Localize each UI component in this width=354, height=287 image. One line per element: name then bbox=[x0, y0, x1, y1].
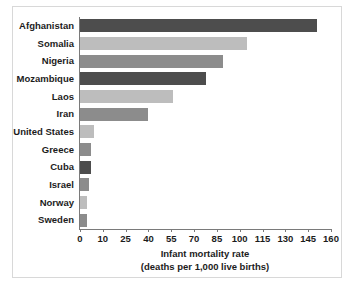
x-axis-tick bbox=[194, 229, 195, 232]
x-axis-tick-label: 130 bbox=[277, 233, 293, 244]
x-axis-tick-label: 10 bbox=[98, 233, 109, 244]
bar-row: Norway bbox=[80, 194, 331, 212]
bar-row: United States bbox=[80, 123, 331, 141]
bar-row: Mozambique bbox=[80, 70, 331, 88]
category-label: Cuba bbox=[50, 159, 74, 174]
bar bbox=[80, 143, 91, 156]
bar-row: Sweden bbox=[80, 211, 331, 229]
category-label: Laos bbox=[52, 89, 74, 104]
category-label: United States bbox=[13, 124, 74, 139]
x-axis-tick bbox=[331, 229, 332, 232]
x-axis-tick-label: 115 bbox=[255, 233, 270, 244]
bar-row: Greece bbox=[80, 141, 331, 159]
x-axis-title: Infant mortality rate (deaths per 1,000 … bbox=[79, 247, 331, 273]
bar bbox=[80, 178, 89, 191]
chart-figure: AfghanistanSomaliaNigeriaMozambiqueLaosI… bbox=[12, 6, 342, 278]
bar-row: Nigeria bbox=[80, 52, 331, 70]
bar bbox=[80, 55, 223, 68]
x-axis-tick bbox=[126, 229, 127, 232]
x-axis-tick bbox=[80, 229, 81, 232]
plot-area: AfghanistanSomaliaNigeriaMozambiqueLaosI… bbox=[79, 17, 331, 230]
x-axis-tick bbox=[217, 229, 218, 232]
bar-row: Afghanistan bbox=[80, 17, 331, 35]
bar-row: Somalia bbox=[80, 35, 331, 53]
x-axis-tick bbox=[148, 229, 149, 232]
bar bbox=[80, 161, 91, 174]
x-axis-tick-label: 55 bbox=[166, 233, 177, 244]
category-label: Somalia bbox=[38, 36, 74, 51]
category-label: Afghanistan bbox=[19, 18, 74, 33]
bar-row: Cuba bbox=[80, 158, 331, 176]
category-label: Sweden bbox=[38, 212, 74, 227]
x-axis-tick-label: 145 bbox=[300, 233, 316, 244]
bar bbox=[80, 108, 148, 121]
x-axis-tick-label: 0 bbox=[77, 233, 82, 244]
bar bbox=[80, 125, 94, 138]
x-axis-tick bbox=[285, 229, 286, 232]
category-label: Nigeria bbox=[42, 53, 74, 68]
bar bbox=[80, 72, 206, 85]
x-axis-tick-label: 100 bbox=[232, 233, 248, 244]
x-axis-title-line2: (deaths per 1,000 live births) bbox=[79, 260, 331, 273]
category-label: Norway bbox=[40, 195, 74, 210]
x-axis-tick-label: 70 bbox=[189, 233, 200, 244]
x-axis-tick bbox=[103, 229, 104, 232]
bar bbox=[80, 90, 173, 103]
category-label: Mozambique bbox=[16, 71, 74, 86]
x-axis-tick bbox=[263, 229, 264, 232]
bar bbox=[80, 214, 87, 227]
x-axis-tick bbox=[308, 229, 309, 232]
bar-row: Iran bbox=[80, 105, 331, 123]
x-axis-tick-label: 25 bbox=[120, 233, 131, 244]
bar bbox=[80, 37, 247, 50]
category-label: Iran bbox=[57, 106, 74, 121]
x-axis-tick bbox=[240, 229, 241, 232]
x-axis-tick-label: 160 bbox=[323, 233, 339, 244]
category-label: Israel bbox=[49, 177, 74, 192]
category-label: Greece bbox=[42, 142, 74, 157]
bar-row: Laos bbox=[80, 88, 331, 106]
x-axis-tick-label: 85 bbox=[212, 233, 223, 244]
bar bbox=[80, 19, 317, 32]
bar-row: Israel bbox=[80, 176, 331, 194]
x-axis-title-line1: Infant mortality rate bbox=[79, 247, 331, 260]
x-axis-tick-label: 40 bbox=[143, 233, 154, 244]
x-axis-tick bbox=[171, 229, 172, 232]
bar bbox=[80, 196, 87, 209]
